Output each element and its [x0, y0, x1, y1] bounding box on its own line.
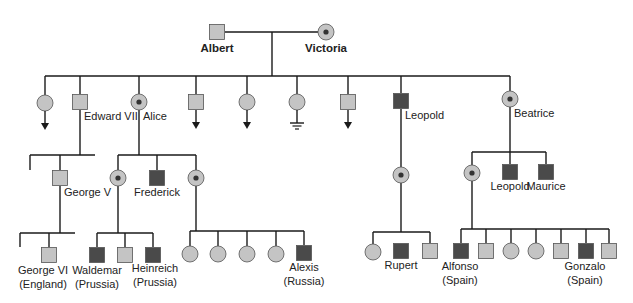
individual-george-v	[53, 171, 68, 186]
female-circle-icon	[365, 244, 381, 260]
individual-alice-daughter-1	[110, 170, 126, 186]
label-alice: Alice	[143, 110, 167, 122]
affected-male-square-icon	[90, 248, 105, 263]
individual-leopold-b	[503, 165, 518, 180]
carrier-dot-icon	[193, 175, 198, 180]
carrier-dot-icon	[469, 170, 474, 175]
male-square-icon	[423, 244, 438, 259]
label-albert: Albert	[200, 42, 233, 54]
label-heinreich-country: (Prussia)	[133, 276, 177, 288]
individual-alice-gc-son	[118, 248, 133, 263]
affected-male-square-icon	[394, 94, 409, 109]
label-alfonso: Alfonso	[442, 260, 479, 272]
male-square-icon	[341, 95, 356, 110]
affected-male-square-icon	[503, 165, 518, 180]
individual-spain-daughter-1	[503, 243, 519, 259]
individual-beatrice-daughter	[464, 165, 480, 181]
label-leopold: Leopold	[405, 109, 444, 121]
individual-russia-daughter-3	[239, 246, 255, 262]
label-george-vi: George VI	[18, 264, 68, 276]
individual-spain-son-2	[554, 244, 569, 259]
male-square-icon	[479, 244, 494, 259]
individuals	[37, 24, 617, 263]
carrier-dot-icon	[323, 29, 328, 34]
label-alexis-country: (Russia)	[284, 275, 325, 287]
female-circle-icon	[37, 95, 53, 111]
individual-edward-vii	[73, 95, 88, 110]
carrier-dot-icon	[398, 172, 403, 177]
individual-waldemar	[90, 248, 105, 263]
individual-gen2-daughter-3	[289, 94, 305, 129]
label-rupert: Rupert	[384, 259, 417, 271]
no-offspring-ground-icon	[290, 110, 304, 129]
individual-beatrice	[502, 91, 518, 107]
individual-spain-son-1	[479, 244, 494, 259]
label-waldemar: Waldemar	[72, 264, 122, 276]
label-maurice: Maurice	[526, 180, 565, 192]
male-square-icon	[118, 248, 133, 263]
arrow-down-icon	[41, 123, 49, 130]
female-circle-icon	[528, 243, 544, 259]
label-leopold-b: Leopold	[490, 180, 529, 192]
label-waldemar-country: (Prussia)	[75, 278, 119, 290]
carrier-dot-icon	[115, 175, 120, 180]
individual-leopold	[394, 94, 409, 109]
affected-male-square-icon	[150, 171, 165, 186]
individual-rupert-sister	[365, 244, 381, 260]
individual-maurice	[539, 165, 554, 180]
male-square-icon	[554, 244, 569, 259]
label-gonzalo: Gonzalo	[565, 260, 606, 272]
pedigree-diagram: AlbertVictoriaEdward VIIAliceLeopoldBeat…	[0, 0, 633, 303]
arrow-down-icon	[344, 122, 352, 129]
male-square-icon	[73, 95, 88, 110]
individual-victoria	[318, 24, 334, 40]
individual-alexis	[297, 246, 312, 261]
individual-gen2-daughter-1	[37, 95, 53, 130]
male-square-icon	[53, 171, 68, 186]
label-alexis: Alexis	[289, 261, 319, 273]
carrier-dot-icon	[136, 99, 141, 104]
individual-gen2-son-2	[341, 95, 356, 130]
individual-russia-daughter-4	[268, 246, 284, 262]
male-square-icon	[602, 244, 617, 259]
male-square-icon	[189, 95, 204, 110]
individual-george-vi	[42, 248, 57, 263]
female-circle-icon	[268, 246, 284, 262]
individual-leopold-daughter	[393, 167, 409, 183]
individual-gen2-daughter-2	[239, 94, 255, 129]
affected-male-square-icon	[297, 246, 312, 261]
carrier-dot-icon	[507, 96, 512, 101]
label-victoria: Victoria	[305, 42, 348, 54]
affected-male-square-icon	[146, 248, 161, 263]
individual-frederick	[150, 171, 165, 186]
individual-gen2-son-1	[189, 95, 204, 130]
label-frederick: Frederick	[134, 186, 180, 198]
female-circle-icon	[182, 246, 198, 262]
female-circle-icon	[210, 246, 226, 262]
female-circle-icon	[289, 94, 305, 110]
label-george-v: George V	[64, 186, 112, 198]
individual-albert	[210, 25, 225, 40]
affected-male-square-icon	[454, 244, 469, 259]
individual-gonzalo	[579, 244, 594, 259]
male-square-icon	[42, 248, 57, 263]
individual-heinreich	[146, 248, 161, 263]
pedigree-chart: AlbertVictoriaEdward VIIAliceLeopoldBeat…	[0, 0, 633, 303]
label-beatrice: Beatrice	[514, 107, 554, 119]
label-george-vi-country: (England)	[19, 278, 67, 290]
arrow-down-icon	[192, 122, 200, 129]
individual-spain-daughter-2	[528, 243, 544, 259]
label-gonzalo-country: (Spain)	[567, 274, 602, 286]
female-circle-icon	[239, 94, 255, 110]
individual-russia-daughter-2	[210, 246, 226, 262]
female-circle-icon	[503, 243, 519, 259]
arrow-down-icon	[243, 122, 251, 129]
label-edward-vii: Edward VII	[84, 110, 138, 122]
label-alfonso-country: (Spain)	[442, 274, 477, 286]
affected-male-square-icon	[539, 165, 554, 180]
label-heinreich: Heinreich	[132, 262, 178, 274]
individual-rupert	[394, 244, 409, 259]
affected-male-square-icon	[579, 244, 594, 259]
individual-alfonso	[454, 244, 469, 259]
individual-alice-daughter-2	[188, 170, 204, 186]
